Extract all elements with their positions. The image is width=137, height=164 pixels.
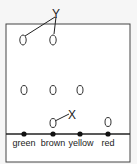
dot-yellow bbox=[77, 131, 82, 136]
label-green: green bbox=[12, 138, 35, 148]
label-yellow: yellow bbox=[68, 138, 94, 148]
diagram-canvas: Y X green brown yellow red bbox=[0, 0, 137, 164]
dot-red bbox=[105, 131, 110, 136]
label-red: red bbox=[101, 138, 114, 148]
dot-green bbox=[21, 131, 26, 136]
label-x: X bbox=[68, 108, 76, 122]
label-brown: brown bbox=[41, 138, 66, 148]
dot-brown bbox=[50, 131, 55, 136]
